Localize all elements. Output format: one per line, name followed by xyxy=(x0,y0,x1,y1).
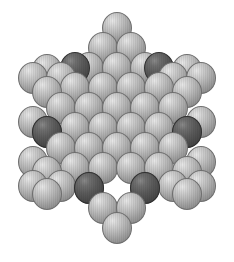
figure-root xyxy=(0,0,234,262)
light-sphere xyxy=(172,178,202,210)
light-sphere xyxy=(102,212,132,244)
sphere-cluster xyxy=(0,0,234,262)
light-sphere xyxy=(32,178,62,210)
